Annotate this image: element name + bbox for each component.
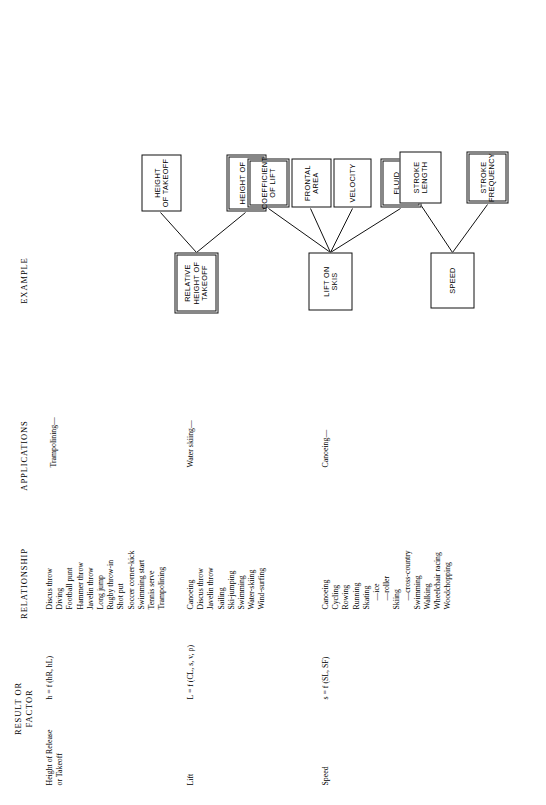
- application-group-1: Trampolining—: [48, 417, 57, 467]
- list-item: Running: [351, 550, 361, 609]
- relationship-list-group-3: Canoeing Cycling Rowing Running Skating …: [320, 550, 453, 609]
- row-label-group-1: Height of Release or Takeoff: [44, 729, 64, 785]
- rotated-figure-stage: EXAMPLE APPLICATIONS RELATIONSHIP RESULT…: [0, 0, 546, 805]
- box-lift-on-skis[interactable]: LIFT ON SKIS: [308, 252, 352, 310]
- connector-lines: [0, 0, 546, 805]
- list-item: Diving: [54, 550, 64, 609]
- list-item: Hammer throw: [75, 550, 85, 609]
- list-item: —ice: [371, 550, 381, 609]
- list-item: Rowing: [340, 550, 350, 609]
- list-item: Water-skiing: [246, 567, 256, 609]
- heading-result-or-factor: RESULT OR FACTOR: [12, 663, 34, 753]
- list-item: Soccer corner-kick: [126, 550, 136, 609]
- list-item: Wind-surfing: [256, 567, 266, 609]
- row-label-group-3: Speed: [320, 766, 330, 785]
- list-item: Football punt: [64, 550, 74, 609]
- list-item: Javelin throw: [85, 550, 95, 609]
- box-stroke-length[interactable]: STROKE LENGTH: [399, 151, 441, 203]
- box-frontal-area[interactable]: FRONTAL AREA: [291, 158, 331, 207]
- list-item: Walking: [422, 550, 432, 609]
- list-item: Sailing: [216, 567, 226, 609]
- formula-group-2: L = f (CL, s, v, ρ): [185, 645, 195, 699]
- list-item: Woodchopping: [442, 550, 452, 609]
- list-item: Tennis serve: [146, 550, 156, 609]
- box-velocity[interactable]: VELOCITY: [333, 158, 371, 207]
- relationship-list-group-1: Discus throw Diving Football punt Hammer…: [44, 550, 166, 609]
- box-relative-height-of-takeoff[interactable]: RELATIVE HEIGHT OF TAKEOFF: [174, 252, 218, 313]
- heading-relationship: RELATIONSHIP: [18, 533, 29, 633]
- list-item: Skiing: [391, 550, 401, 609]
- heading-applications: APPLICATIONS: [18, 405, 29, 505]
- list-item: Skating: [361, 550, 371, 609]
- box-stroke-frequency[interactable]: STROKE FREQUENCY: [466, 151, 508, 203]
- application-group-2: Water skiing—: [185, 420, 194, 467]
- list-item: Rugby throw-in: [105, 550, 115, 609]
- list-item: Cycling: [330, 550, 340, 609]
- list-item: Discus throw: [44, 550, 54, 609]
- list-item: Shot put: [115, 550, 125, 609]
- list-item: —roller: [381, 550, 391, 609]
- list-item: Swimming: [236, 567, 246, 609]
- list-item: Swimming: [412, 550, 422, 609]
- relationship-list-group-2: Canoeing Discus throw Javelin throw Sail…: [185, 567, 267, 609]
- box-speed[interactable]: SPEED: [430, 252, 474, 308]
- list-item: Javelin throw: [205, 567, 215, 609]
- figure-page: EXAMPLE APPLICATIONS RELATIONSHIP RESULT…: [0, 0, 546, 805]
- list-item: Canoeing: [185, 567, 195, 609]
- row-label-group-2: Lift: [185, 773, 195, 785]
- box-height-of-takeoff[interactable]: HEIGHT OF TAKEOFF: [141, 154, 181, 211]
- list-item: Trampolining: [156, 550, 166, 609]
- box-coefficient-of-lift[interactable]: COEFFICIENT OF LIFT: [247, 158, 289, 207]
- list-item: Canoeing: [320, 550, 330, 609]
- list-item: Long jump: [95, 550, 105, 609]
- heading-example: EXAMPLE: [18, 235, 29, 325]
- formula-group-1: h = f (hR, hL): [44, 655, 54, 699]
- list-item: Wheelchair racing: [432, 550, 442, 609]
- formula-group-3: s = f (SL, SF): [320, 656, 330, 699]
- list-item: Swimming start: [136, 550, 146, 609]
- list-item: —cross-country: [402, 550, 412, 609]
- application-group-3: Canoeing—: [320, 429, 329, 467]
- list-item: Discus throw: [195, 567, 205, 609]
- list-item: Ski-jumping: [226, 567, 236, 609]
